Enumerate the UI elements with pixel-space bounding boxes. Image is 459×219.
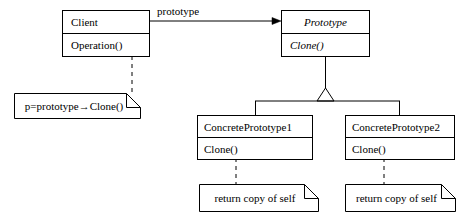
note-shape-concrete-prototype-2 xyxy=(346,185,456,212)
class-name-prototype: Prototype xyxy=(282,11,369,34)
class-box-concrete-prototype-1[interactable]: ConcretePrototype1 Clone() xyxy=(197,115,313,160)
note-shape-client xyxy=(15,94,141,119)
class-operation-concrete-prototype-1: Clone() xyxy=(198,138,312,159)
generalization-prototype xyxy=(255,57,400,115)
class-name-concrete-prototype-1: ConcretePrototype1 xyxy=(198,116,312,138)
class-operation-client: Operation() xyxy=(63,34,149,56)
class-name-concrete-prototype-2: ConcretePrototype2 xyxy=(346,116,454,138)
class-box-concrete-prototype-2[interactable]: ConcretePrototype2 Clone() xyxy=(345,115,455,160)
class-name-client: Client xyxy=(63,11,149,34)
uml-class-diagram: Client Operation() Prototype Clone() Con… xyxy=(0,0,459,219)
note-shape-concrete-prototype-1 xyxy=(200,185,319,212)
association-label-prototype: prototype xyxy=(157,5,199,17)
class-operation-prototype: Clone() xyxy=(282,34,369,56)
class-box-client[interactable]: Client Operation() xyxy=(62,10,150,57)
association-client-prototype xyxy=(150,18,281,25)
class-box-prototype[interactable]: Prototype Clone() xyxy=(281,10,370,57)
class-operation-concrete-prototype-2: Clone() xyxy=(346,138,454,159)
